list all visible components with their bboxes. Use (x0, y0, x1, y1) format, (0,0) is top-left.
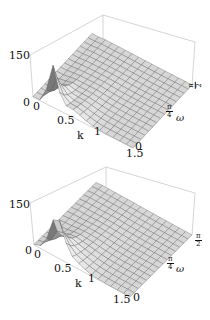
k-axis-label: k (77, 130, 84, 141)
k-tick-1: 1 (94, 126, 101, 137)
z-tick-0: 0 (25, 245, 32, 256)
z-tick-0: 0 (23, 97, 30, 108)
z-tick-150: 150 (9, 50, 30, 61)
plot-1-canvas (0, 0, 210, 160)
box-edge (192, 193, 195, 235)
w-tick-0: 0 (135, 141, 142, 152)
box-edge (30, 55, 33, 97)
surface-plot-2: 150 0 0 0.5 k 1 1.5 0 π 4 ω π 2 (0, 160, 210, 320)
w-tick-pi-over-4: π 4 (166, 104, 173, 119)
w-tick-0: 0 (133, 292, 140, 303)
w-axis-label: ω (176, 264, 184, 274)
k-tick-0: 0 (33, 101, 40, 112)
plot-2-canvas (0, 160, 210, 320)
w-tick-pi-over-2: π 2 (188, 82, 203, 89)
k-tick-0: 0 (34, 249, 41, 260)
w-tick-pi-over-4: π 4 (167, 256, 174, 271)
box-edge (30, 203, 34, 245)
k-axis-label: k (75, 278, 82, 289)
z-tick-150: 150 (9, 199, 30, 210)
k-tick-0-5: 0.5 (54, 263, 72, 274)
surface-plot-1: 150 0 0 0.5 k 1 1.5 0 π 4 ω π 2 (0, 0, 210, 160)
k-tick-1-5: 1.5 (113, 294, 131, 305)
w-axis-label: ω (176, 113, 184, 123)
w-tick-pi-over-2: π 2 (195, 233, 202, 248)
box-edge (106, 167, 195, 193)
k-tick-1: 1 (88, 273, 95, 284)
k-tick-0-5: 0.5 (57, 115, 75, 126)
box-edge (103, 15, 195, 42)
box-edge (192, 42, 195, 85)
